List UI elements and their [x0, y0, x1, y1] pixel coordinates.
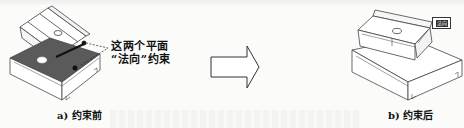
constraint-annotation: 这两个平面 “法向”约束 — [111, 40, 171, 66]
constraint-tag-text: 法向 — [436, 20, 448, 27]
caption-before: a) 约束前 — [57, 107, 102, 122]
annotation-line-1: 这两个平面 — [111, 40, 171, 53]
constraint-tag-label: 法向 — [432, 17, 451, 29]
annotation-line-2: “法向”约束 — [111, 53, 171, 66]
caption-after: b) 约束后 — [388, 107, 433, 122]
hollow-right-arrow-icon — [211, 46, 259, 88]
left-assembly-drawing — [10, 6, 108, 100]
